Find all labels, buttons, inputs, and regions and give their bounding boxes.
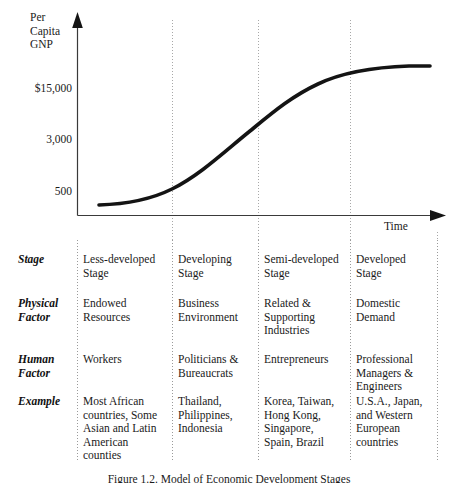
stage-divider-lines <box>173 20 438 240</box>
cell-physical-factor-col1: Endowed Resources <box>83 297 169 324</box>
gnp-growth-curve <box>99 66 430 205</box>
y-axis-title: Per Capita GNP <box>30 11 60 52</box>
stage-attribute-table: Stage Physical Factor Human Factor Examp… <box>0 240 458 483</box>
cell-example-col2: Thailand, Philippines, Indonesia <box>178 395 256 436</box>
cell-physical-factor-col2: Business Environment <box>178 297 256 324</box>
cell-stage-col3: Semi-developed Stage <box>264 253 348 280</box>
cell-example-col3: Korea, Taiwan, Hong Kong, Singapore, Spa… <box>264 395 348 449</box>
cell-human-factor-col2: Politicians & Bureaucrats <box>178 353 256 380</box>
y-tick-label-3000: 3,000 <box>14 133 72 146</box>
row-label-stage: Stage <box>18 253 74 267</box>
cell-example-col1: Most African countries, Some Asian and L… <box>83 395 169 463</box>
y-axis-arrowhead <box>72 12 83 28</box>
cell-human-factor-col4: Professional Managers & Engineers <box>356 353 434 394</box>
row-label-human-factor: Human Factor <box>18 353 74 380</box>
figure-economic-development-stages: Per Capita GNP Time $15,000 3,000 500 St… <box>0 0 458 483</box>
cell-stage-col2: Developing Stage <box>178 253 256 280</box>
chart-canvas <box>0 0 458 240</box>
cell-human-factor-col1: Workers <box>83 353 169 367</box>
cell-stage-col1: Less-developed Stage <box>83 253 169 280</box>
chart-per-capita-gnp-over-time: Per Capita GNP Time $15,000 3,000 500 <box>0 0 458 240</box>
x-axis-title: Time <box>384 220 408 234</box>
figure-caption: Figure 1.2. Model of Economic Developmen… <box>0 473 458 483</box>
y-axis <box>72 12 83 216</box>
y-tick-label-15000: $15,000 <box>14 82 72 95</box>
cell-physical-factor-col4: Domestic Demand <box>356 297 434 324</box>
y-tick-label-500: 500 <box>14 185 72 198</box>
cell-human-factor-col3: Entrepreneurs <box>264 353 348 367</box>
cell-example-col4: U.S.A., Japan, and Western European coun… <box>356 395 434 449</box>
row-label-physical-factor: Physical Factor <box>18 297 74 324</box>
cell-physical-factor-col3: Related & Supporting Industries <box>264 297 348 338</box>
cell-stage-col4: Developed Stage <box>356 253 434 280</box>
x-axis-arrowhead <box>430 210 446 221</box>
row-label-example: Example <box>18 395 74 409</box>
